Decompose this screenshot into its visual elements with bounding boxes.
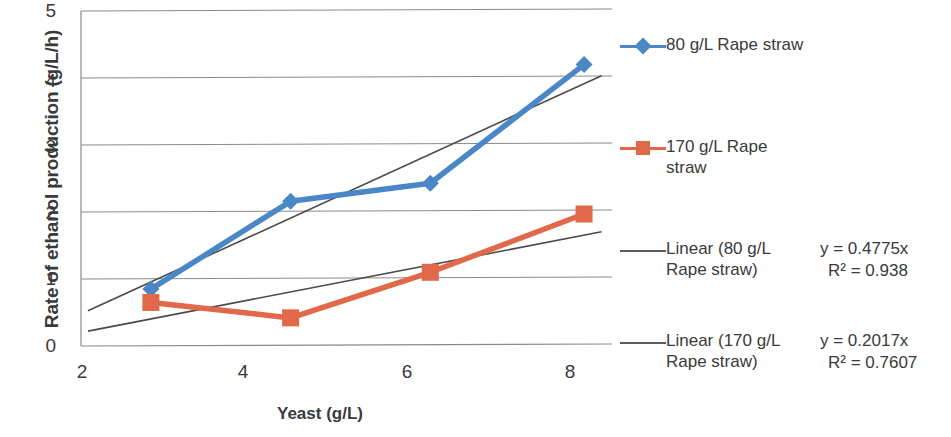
legend-entry-80-g-l-rape-straw[interactable]: 80 g/L Rape straw bbox=[620, 34, 803, 56]
equation-text-80: y = 0.4775x bbox=[820, 238, 908, 260]
legend-entry-170-g-l-rape-straw[interactable]: 170 g/L Rape straw bbox=[620, 136, 767, 178]
trendline-equation-80: y = 0.4775x R² = 0.938 bbox=[820, 238, 908, 282]
legend-label-linear-80: Linear (80 g/L Rape straw) bbox=[666, 238, 771, 280]
diamond-marker-icon bbox=[635, 38, 652, 55]
data-point-marker bbox=[282, 309, 299, 326]
legend-key-line-diamond-marker bbox=[620, 36, 666, 56]
legend-key-line-square-marker bbox=[620, 138, 666, 158]
legend-entry-linear-80[interactable]: Linear (80 g/L Rape straw) bbox=[620, 238, 771, 280]
r-squared-text-80: R² = 0.938 bbox=[820, 260, 908, 282]
legend-label-170: 170 g/L Rape straw bbox=[666, 136, 767, 178]
r-squared-text-170: R² = 0.7607 bbox=[820, 352, 917, 374]
axis-lines bbox=[81, 11, 612, 346]
data-point-marker bbox=[422, 264, 439, 281]
series-170-g-l-rape-straw bbox=[142, 206, 592, 327]
legend-key-trendline-80 bbox=[620, 240, 666, 260]
data-point-marker bbox=[576, 206, 593, 223]
series-80-g-l-rape-straw bbox=[142, 56, 592, 297]
chart-container: Rate of ethanol production (g/L/h) 5 4 3… bbox=[0, 0, 951, 437]
trendline-equation-170: y = 0.2017x R² = 0.7607 bbox=[820, 330, 917, 374]
legend-key-trendline-170 bbox=[620, 332, 666, 352]
gridlines bbox=[81, 9, 612, 279]
chart-legend: 80 g/L Rape straw 170 g/L Rape straw Lin… bbox=[620, 0, 951, 437]
legend-label-linear-170: Linear (170 g/L Rape straw) bbox=[666, 330, 780, 372]
data-point-marker bbox=[142, 294, 159, 311]
square-marker-icon bbox=[636, 141, 650, 155]
data-point-markers bbox=[142, 56, 592, 297]
legend-label-80: 80 g/L Rape straw bbox=[666, 34, 803, 55]
legend-entry-linear-170[interactable]: Linear (170 g/L Rape straw) bbox=[620, 330, 780, 372]
equation-text-170: y = 0.2017x bbox=[820, 330, 917, 352]
